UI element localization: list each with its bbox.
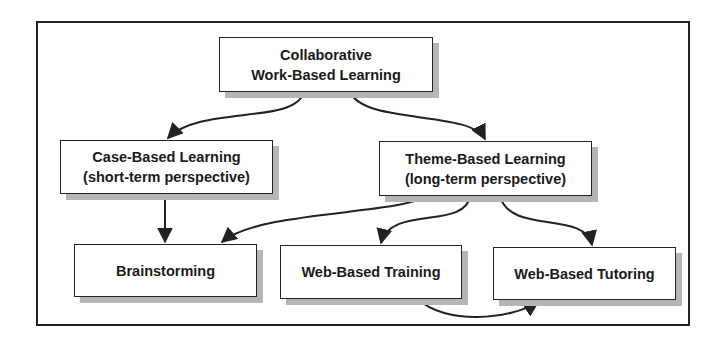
node-label-line-2: (short-term perspective) (83, 167, 250, 187)
node-label-line-2: Work-Based Learning (251, 65, 401, 85)
edge-tbl-to-wbtraining (381, 196, 470, 243)
node-label: Brainstorming (116, 261, 215, 281)
edge-tbl-to-brainstorming (222, 196, 425, 242)
node-web-based-training: Web-Based Training (280, 245, 462, 299)
node-theme-based-learning: Theme-Based Learning (long-term perspect… (379, 141, 592, 196)
edge-cwbl-to-tbl (350, 92, 485, 139)
node-collaborative-work-based-learning: Collaborative Work-Based Learning (219, 37, 433, 92)
node-case-based-learning: Case-Based Learning (short-term perspect… (60, 140, 273, 194)
node-label-line-2: (long-term perspective) (405, 169, 566, 189)
node-label-line-1: Collaborative (280, 45, 372, 65)
node-brainstorming: Brainstorming (74, 244, 257, 297)
node-label: Web-Based Tutoring (514, 264, 654, 284)
node-label-line-1: Theme-Based Learning (405, 149, 565, 169)
node-label: Web-Based Training (301, 262, 440, 282)
edge-cwbl-to-cbl (168, 92, 304, 138)
edge-tbl-to-wbtutoring (500, 196, 592, 245)
edge-wbtraining-to-wbtutoring (418, 299, 538, 317)
node-label-line-1: Case-Based Learning (92, 147, 240, 167)
node-web-based-tutoring: Web-Based Tutoring (493, 247, 676, 300)
